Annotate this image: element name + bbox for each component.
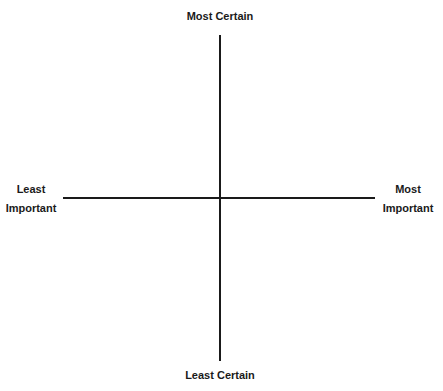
label-most-certain: Most Certain [170, 7, 270, 26]
left-label-line2: Important [0, 199, 62, 218]
top-label-text: Most Certain [170, 7, 270, 26]
horizontal-axis-importance [63, 197, 375, 199]
label-most-important: Most Important [373, 180, 443, 218]
label-least-important: Least Important [0, 180, 62, 218]
label-least-certain: Least Certain [170, 366, 270, 385]
bottom-label-text: Least Certain [170, 366, 270, 385]
right-label-line2: Important [373, 199, 443, 218]
left-label-line1: Least [0, 180, 62, 199]
quadrant-diagram: Most Certain Least Certain Least Importa… [0, 0, 443, 391]
right-label-line1: Most [373, 180, 443, 199]
